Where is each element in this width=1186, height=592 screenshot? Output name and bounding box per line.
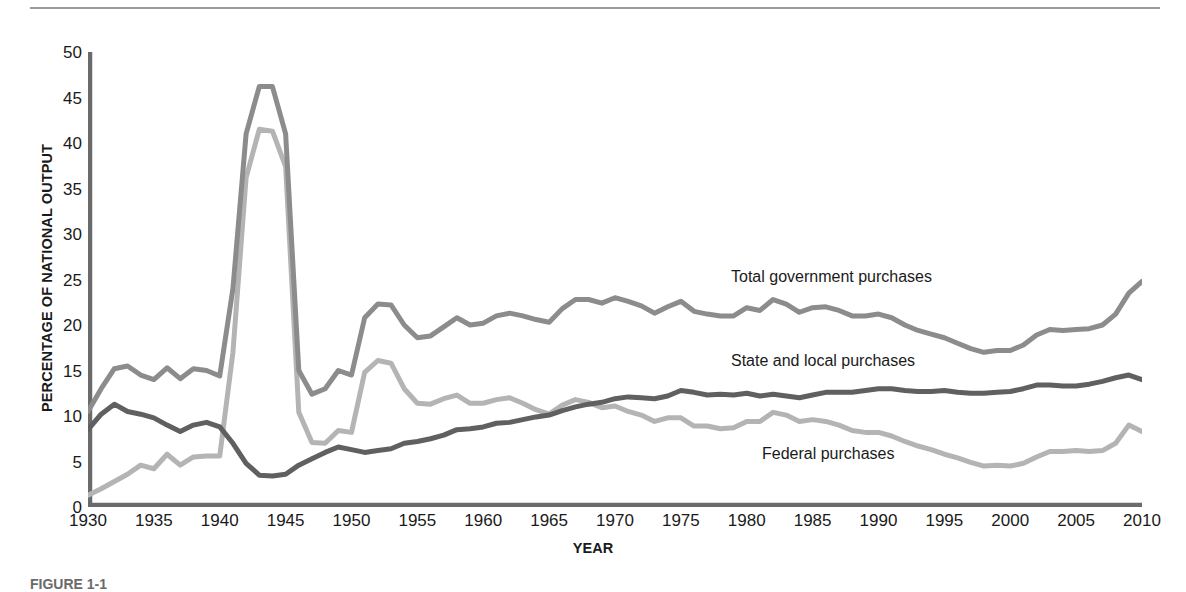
x-tick-1965: 1965	[514, 512, 584, 529]
x-axis-tick-labels: 1930193519401945195019551960196519701975…	[88, 512, 1142, 536]
x-tick-1985: 1985	[778, 512, 848, 529]
series-annotation-total-government: Total government purchases	[731, 268, 932, 286]
x-tick-2000: 2000	[975, 512, 1045, 529]
x-tick-1940: 1940	[185, 512, 255, 529]
y-tick-30: 30	[48, 226, 82, 243]
x-tick-1935: 1935	[119, 512, 189, 529]
y-tick-50: 50	[48, 44, 82, 61]
top-divider-rule	[30, 7, 1160, 9]
x-tick-1930: 1930	[53, 512, 123, 529]
y-tick-25: 25	[48, 271, 82, 288]
axis-lines	[88, 52, 1142, 507]
x-tick-1975: 1975	[646, 512, 716, 529]
figure-caption: FIGURE 1-1	[30, 576, 107, 592]
x-tick-1950: 1950	[317, 512, 387, 529]
x-tick-1945: 1945	[251, 512, 321, 529]
x-tick-1980: 1980	[712, 512, 782, 529]
series-lines	[88, 87, 1142, 496]
y-axis-tick-labels: 05101520253035404550	[40, 52, 82, 507]
series-annotation-state-and-local: State and local purchases	[731, 352, 915, 370]
x-tick-1970: 1970	[580, 512, 650, 529]
y-tick-20: 20	[48, 317, 82, 334]
y-tick-10: 10	[48, 408, 82, 425]
x-tick-1955: 1955	[382, 512, 452, 529]
y-tick-35: 35	[48, 180, 82, 197]
series-line-total-government-purchases	[88, 87, 1142, 412]
series-line-federal-purchases	[88, 129, 1142, 495]
x-tick-1960: 1960	[448, 512, 518, 529]
x-tick-1990: 1990	[844, 512, 914, 529]
plot-area	[88, 52, 1142, 507]
x-tick-1995: 1995	[909, 512, 979, 529]
y-tick-15: 15	[48, 362, 82, 379]
series-annotation-federal: Federal purchases	[762, 445, 895, 463]
y-tick-40: 40	[48, 135, 82, 152]
x-tick-2010: 2010	[1107, 512, 1177, 529]
x-axis-title: YEAR	[0, 540, 1186, 556]
x-tick-2005: 2005	[1041, 512, 1111, 529]
series-line-state-and-local-purchases	[88, 375, 1142, 476]
y-tick-5: 5	[48, 453, 82, 470]
y-tick-45: 45	[48, 89, 82, 106]
chart-svg	[88, 52, 1142, 507]
